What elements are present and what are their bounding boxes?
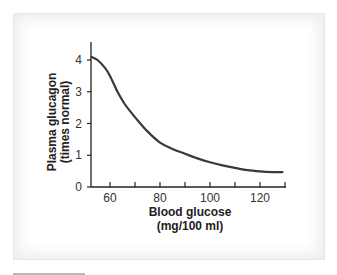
x-axis-units: (mg/100 ml)	[157, 219, 224, 233]
x-axis-title: Blood glucose	[149, 205, 232, 219]
x-tick-label: 100	[200, 191, 220, 205]
y-axis-units: (times normal)	[58, 81, 72, 164]
x-tick-label: 60	[103, 191, 117, 205]
x-tick-label: 120	[250, 191, 270, 205]
x-tick-label: 80	[153, 191, 167, 205]
line-chart: 01234 6080100120 Blood glucose (mg/100 m…	[0, 0, 337, 275]
y-tick-label: 1	[75, 148, 82, 162]
y-ticks: 01234	[75, 53, 91, 194]
y-tick-label: 4	[75, 53, 82, 67]
glucagon-curve	[91, 57, 282, 172]
y-tick-label: 2	[75, 117, 82, 131]
y-tick-label: 3	[75, 85, 82, 99]
y-axis-title: Plasma glucagon	[45, 73, 59, 172]
x-ticks: 6080100120	[103, 182, 285, 205]
y-tick-label: 0	[75, 180, 82, 194]
